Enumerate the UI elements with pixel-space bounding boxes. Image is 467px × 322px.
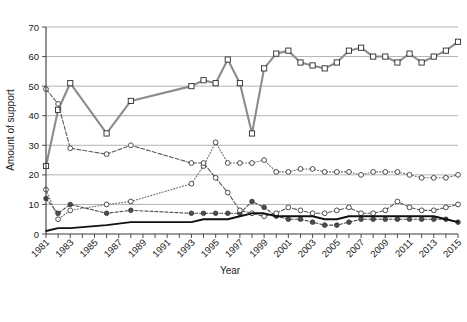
data-point (213, 140, 218, 145)
data-point (225, 161, 230, 166)
x-tick-label: 2003 (295, 237, 318, 260)
data-point (201, 211, 206, 216)
data-point (359, 217, 364, 222)
y-tick-label: 10 (28, 199, 39, 210)
chart-figure: 0102030405060701981198319851987198919911… (0, 0, 467, 322)
data-point (407, 217, 412, 222)
data-point (225, 211, 230, 216)
data-point (262, 66, 267, 71)
chart-legend (0, 277, 467, 322)
data-point (358, 45, 363, 50)
data-point (407, 51, 412, 56)
data-point (371, 170, 376, 175)
data-point (189, 181, 194, 186)
data-point (334, 170, 339, 175)
data-point (335, 223, 340, 228)
x-tick-label: 2001 (271, 237, 294, 260)
x-tick-label: 1999 (247, 237, 270, 260)
data-point (443, 175, 448, 180)
data-point (419, 175, 424, 180)
x-tick-label: 1987 (101, 237, 124, 260)
y-tick-label: 0 (34, 229, 39, 240)
x-tick-label: 1989 (126, 237, 149, 260)
data-point (225, 57, 230, 62)
data-point (189, 161, 194, 166)
data-point (310, 63, 315, 68)
data-point (128, 143, 133, 148)
data-point (262, 158, 267, 163)
data-point (213, 211, 218, 216)
x-tick-label: 2007 (344, 237, 367, 260)
data-point (347, 205, 352, 210)
data-point (237, 208, 242, 213)
data-point (274, 51, 279, 56)
data-point (359, 172, 364, 177)
y-axis-title: Amount of support (5, 89, 16, 171)
data-point (298, 60, 303, 65)
x-tick-label: 1993 (174, 237, 197, 260)
data-point (68, 202, 73, 207)
data-point (189, 211, 194, 216)
data-point (443, 205, 448, 210)
data-point (347, 220, 352, 225)
line-chart-canvas: 0102030405060701981198319851987198919911… (0, 0, 467, 280)
data-point (286, 205, 291, 210)
data-point (334, 60, 339, 65)
data-point (455, 39, 460, 44)
x-tick-label: 1981 (29, 237, 52, 260)
data-point (68, 146, 73, 151)
x-tick-label: 2013 (416, 237, 439, 260)
data-point (431, 54, 436, 59)
data-point (201, 161, 206, 166)
data-point (213, 175, 218, 180)
data-point (286, 170, 291, 175)
data-point (407, 205, 412, 210)
data-point (431, 175, 436, 180)
data-point (201, 78, 206, 83)
x-axis-title: Year (220, 265, 241, 276)
data-point (249, 131, 254, 136)
data-point (128, 98, 133, 103)
data-point (395, 199, 400, 204)
x-tick-label: 1997 (223, 237, 246, 260)
data-point (56, 101, 61, 106)
data-point (286, 217, 291, 222)
data-point (419, 60, 424, 65)
data-point (237, 81, 242, 86)
gridlines-group (46, 27, 458, 204)
data-point (286, 48, 291, 53)
data-point (383, 170, 388, 175)
data-point (419, 208, 424, 213)
y-tick-label: 70 (28, 22, 39, 33)
data-point (371, 217, 376, 222)
data-point (371, 211, 376, 216)
data-point (68, 208, 73, 213)
data-point (431, 208, 436, 213)
data-point (68, 81, 73, 86)
x-tick-label: 2005 (320, 237, 343, 260)
data-point (298, 167, 303, 172)
data-point (395, 60, 400, 65)
data-point (310, 167, 315, 172)
data-point (56, 217, 61, 222)
data-point (128, 199, 133, 204)
y-tick-label: 60 (28, 51, 39, 62)
data-point (419, 217, 424, 222)
data-point (189, 84, 194, 89)
data-point (262, 205, 267, 210)
data-point (104, 211, 109, 216)
data-point (250, 161, 255, 166)
data-point (298, 208, 303, 213)
data-point (310, 211, 315, 216)
data-point (346, 48, 351, 53)
data-point (347, 170, 352, 175)
data-point (274, 170, 279, 175)
data-point (104, 131, 109, 136)
tick-labels-group: 0102030405060701981198319851987198919911… (28, 22, 463, 260)
y-tick-label: 40 (28, 110, 39, 121)
data-point (104, 152, 109, 157)
data-point (250, 199, 255, 204)
data-point (322, 170, 327, 175)
data-point (237, 161, 242, 166)
y-tick-label: 50 (28, 81, 39, 92)
